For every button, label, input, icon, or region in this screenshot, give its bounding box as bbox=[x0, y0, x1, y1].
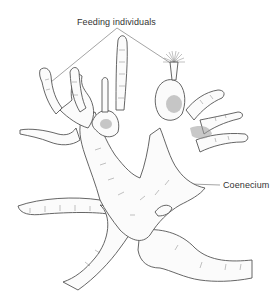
middle-zooids bbox=[92, 36, 127, 137]
right-branch bbox=[155, 51, 248, 152]
feeding-individuals-label: Feeding individuals bbox=[77, 17, 156, 27]
colony-drawing bbox=[0, 0, 280, 304]
colony-illustration: Feeding individuals Coenecium bbox=[0, 0, 280, 304]
coenecium-label: Coenecium bbox=[223, 180, 269, 190]
feeding-leader-line bbox=[51, 28, 175, 82]
